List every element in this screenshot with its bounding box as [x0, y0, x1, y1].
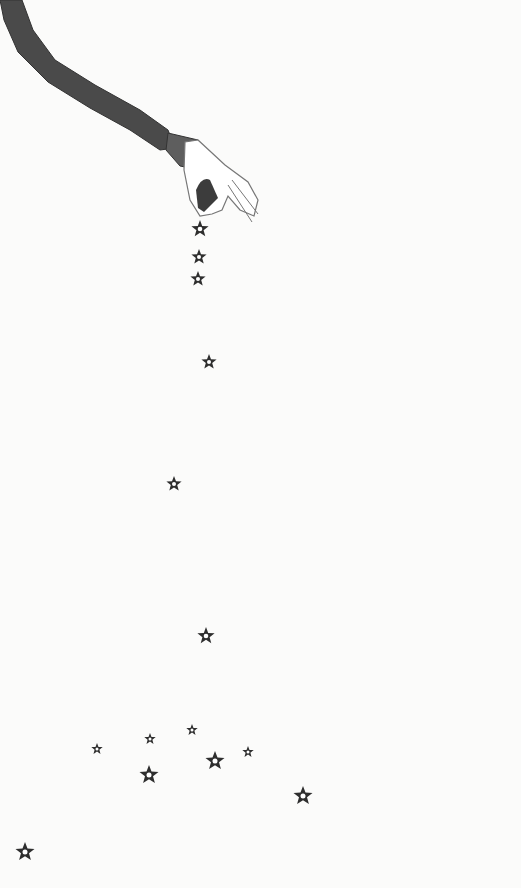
star-center — [198, 227, 203, 232]
star-center — [191, 729, 194, 732]
star-center — [149, 738, 152, 741]
star-center — [172, 482, 176, 486]
star-center — [23, 850, 28, 855]
star-center — [301, 794, 306, 799]
star-center — [96, 748, 99, 751]
hand — [184, 140, 258, 216]
star-center — [147, 773, 152, 778]
star-center — [213, 759, 218, 764]
sleeve — [0, 0, 175, 150]
star-center — [204, 634, 209, 639]
star-center — [197, 255, 201, 259]
star-center — [207, 360, 211, 364]
illustration — [0, 0, 521, 888]
star-center — [247, 751, 250, 754]
star-center — [196, 277, 200, 281]
